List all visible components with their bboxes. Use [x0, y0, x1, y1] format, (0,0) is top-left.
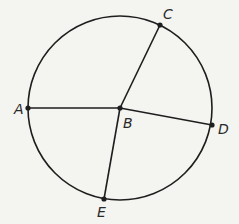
point-B-dot [117, 105, 122, 110]
point-E-label: E [97, 204, 106, 220]
point-C-label: C [163, 6, 173, 22]
segment-BC [120, 25, 160, 108]
segment-BD [120, 108, 212, 125]
point-A-label: A [13, 101, 24, 117]
point-B-label: B [123, 115, 133, 131]
diagram-canvas: A B C D E [0, 0, 239, 224]
point-C-dot [157, 22, 162, 27]
point-D-label: D [218, 121, 229, 137]
point-A-dot [25, 105, 30, 110]
geometry-diagram: A B C D E [0, 0, 239, 224]
segment-BE [104, 108, 120, 199]
point-E-dot [101, 196, 106, 201]
point-D-dot [209, 122, 214, 127]
